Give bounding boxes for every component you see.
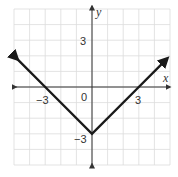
graph-plot: y x 0 −3 3 3 −3 (0, 0, 178, 177)
x-axis-label: x (162, 71, 169, 85)
x-tick-label-3: 3 (135, 94, 141, 106)
origin-label: 0 (81, 91, 87, 103)
y-axis-label: y (95, 5, 102, 19)
y-tick-label-3: 3 (80, 35, 86, 47)
x-tick-label-neg3: −3 (36, 94, 49, 106)
y-tick-label-neg3: −3 (74, 133, 87, 145)
